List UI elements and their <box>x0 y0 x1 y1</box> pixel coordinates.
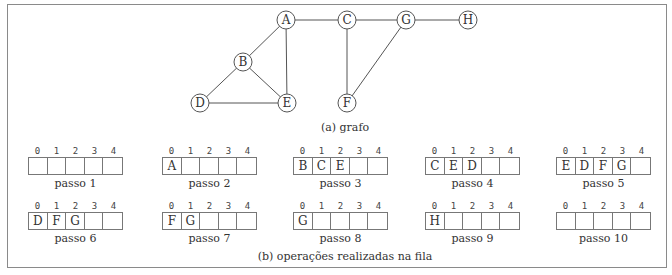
index-label: 4 <box>369 145 388 157</box>
index-label: 2 <box>594 200 613 212</box>
queue-cell <box>331 213 350 229</box>
queue-cell <box>85 158 104 174</box>
svg-text:E: E <box>283 96 292 110</box>
queue-cell: D <box>463 158 482 174</box>
queue-cell: A <box>163 158 182 174</box>
queue-cell: E <box>445 158 464 174</box>
index-label: 3 <box>482 200 501 212</box>
index-label: 3 <box>613 145 632 157</box>
queue-cell <box>368 213 387 229</box>
queue-cell <box>463 213 482 229</box>
queue-cell: E <box>331 158 350 174</box>
svg-text:G: G <box>401 13 411 27</box>
node-A: A <box>277 11 295 29</box>
index-label: 3 <box>350 145 369 157</box>
queue-cell <box>237 158 256 174</box>
queue-indices: 01234 <box>293 145 388 157</box>
queue-cell <box>237 213 256 229</box>
index-label: 3 <box>85 145 104 157</box>
queue-cells: FG <box>162 212 257 230</box>
queue-cell <box>48 158 67 174</box>
queue-cell <box>29 158 48 174</box>
queue-step-6: 01234DFGpasso 6 <box>28 200 123 245</box>
svg-text:B: B <box>239 55 248 69</box>
index-label: 2 <box>463 200 482 212</box>
queue-step-8: 01234Gpasso 8 <box>293 200 388 245</box>
step-label: passo 2 <box>162 177 257 190</box>
queue-cell: G <box>182 213 201 229</box>
graph-diagram: ACGHBDEF <box>0 0 672 140</box>
queue-cell: D <box>576 158 595 174</box>
queue-cell: F <box>594 158 613 174</box>
queue-cell: H <box>426 213 445 229</box>
index-label: 2 <box>200 145 219 157</box>
index-label: 1 <box>47 200 66 212</box>
step-label: passo 9 <box>425 232 520 245</box>
svg-text:D: D <box>195 96 205 110</box>
index-label: 0 <box>556 145 575 157</box>
edge-A-E <box>286 20 287 103</box>
index-label: 1 <box>312 145 331 157</box>
queue-cell <box>557 213 576 229</box>
index-label: 2 <box>463 145 482 157</box>
index-label: 0 <box>162 145 181 157</box>
queue-cell: G <box>294 213 313 229</box>
index-label: 3 <box>219 200 238 212</box>
edge-G-F <box>347 20 406 103</box>
queue-indices: 01234 <box>425 145 520 157</box>
queue-cell <box>576 213 595 229</box>
queue-indices: 01234 <box>162 145 257 157</box>
queue-cells: BCE <box>293 157 388 175</box>
index-label: 0 <box>556 200 575 212</box>
queue-indices: 01234 <box>162 200 257 212</box>
index-label: 4 <box>632 145 651 157</box>
queue-cell: B <box>294 158 313 174</box>
queue-cell <box>445 213 464 229</box>
queue-cell <box>182 158 201 174</box>
queue-indices: 01234 <box>293 200 388 212</box>
index-label: 2 <box>66 145 85 157</box>
queue-cell: G <box>613 158 632 174</box>
queue-cell <box>219 158 238 174</box>
queue-cell <box>482 213 501 229</box>
queue-cell <box>103 213 122 229</box>
queue-indices: 01234 <box>28 200 123 212</box>
queue-cells <box>28 157 123 175</box>
node-G: G <box>397 11 415 29</box>
index-label: 2 <box>200 200 219 212</box>
index-label: 3 <box>85 200 104 212</box>
queue-step-5: 01234EDFGpasso 5 <box>556 145 651 190</box>
index-label: 2 <box>66 200 85 212</box>
node-B: B <box>234 53 252 71</box>
graph-caption: (a) grafo <box>321 121 369 134</box>
queue-step-2: 01234Apasso 2 <box>162 145 257 190</box>
queue-cells: G <box>293 212 388 230</box>
queue-indices: 01234 <box>556 145 651 157</box>
queue-cell <box>219 213 238 229</box>
queue-cell: G <box>66 213 85 229</box>
svg-text:H: H <box>463 13 473 27</box>
queue-cell: D <box>29 213 48 229</box>
index-label: 1 <box>444 200 463 212</box>
queue-cell <box>200 158 219 174</box>
index-label: 0 <box>28 145 47 157</box>
svg-text:A: A <box>281 13 291 27</box>
index-label: 4 <box>104 200 123 212</box>
index-label: 4 <box>632 200 651 212</box>
index-label: 2 <box>331 200 350 212</box>
index-label: 0 <box>162 200 181 212</box>
svg-text:C: C <box>342 13 351 27</box>
index-label: 3 <box>482 145 501 157</box>
index-label: 4 <box>104 145 123 157</box>
queue-step-3: 01234BCEpasso 3 <box>293 145 388 190</box>
queue-step-9: 01234Hpasso 9 <box>425 200 520 245</box>
index-label: 0 <box>425 145 444 157</box>
queue-cells: A <box>162 157 257 175</box>
queue-cells <box>556 212 651 230</box>
index-label: 4 <box>238 145 257 157</box>
queue-cells: EDFG <box>556 157 651 175</box>
graph-nodes: ACGHBDEF <box>191 11 477 112</box>
step-label: passo 5 <box>556 177 651 190</box>
queue-cell <box>66 158 85 174</box>
index-label: 4 <box>238 200 257 212</box>
